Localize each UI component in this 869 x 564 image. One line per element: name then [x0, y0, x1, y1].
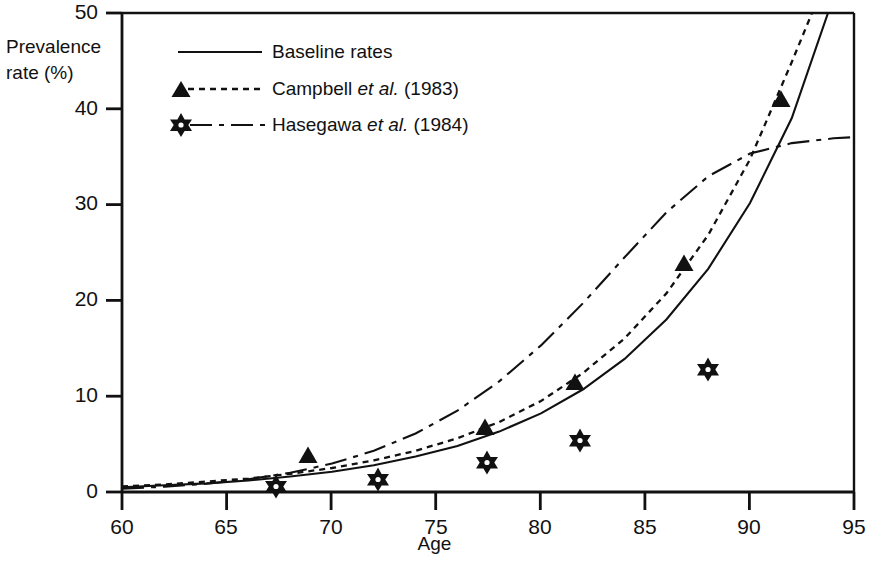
- y-tick-label-50: 50: [42, 0, 98, 24]
- x-tick-label-70: 70: [301, 515, 361, 539]
- y-axis-title-line2: rate (%): [6, 60, 101, 86]
- legend-label-hasegawa-prefix: Hasegawa: [272, 114, 367, 135]
- legend-label-hasegawa-italic: et al.: [367, 114, 408, 135]
- axis-frame: [122, 13, 854, 492]
- series-line-campbell: [122, 13, 812, 486]
- x-tick-label-90: 90: [719, 515, 779, 539]
- data-point-triangle: [772, 91, 791, 108]
- series-line-baseline: [122, 13, 828, 487]
- x-tick-label-80: 80: [510, 515, 570, 539]
- y-tick-label-0: 0: [42, 479, 98, 503]
- data-point-triangle: [299, 447, 318, 464]
- legend-label-baseline: Baseline rates: [272, 41, 392, 63]
- x-tick-label-75: 75: [406, 515, 466, 539]
- legend-label-campbell: Campbell et al. (1983): [272, 78, 459, 100]
- legend-label-campbell-suffix: (1983): [399, 78, 459, 99]
- y-tick-label-10: 10: [42, 383, 98, 407]
- x-tick-label-60: 60: [92, 515, 152, 539]
- data-point-star: [569, 429, 591, 453]
- legend-marker-star: [170, 113, 192, 137]
- y-axis-ticks: [106, 13, 122, 492]
- data-point-triangle: [476, 419, 495, 436]
- x-tick-label-85: 85: [615, 515, 675, 539]
- data-point-star: [367, 468, 389, 492]
- x-tick-label-95: 95: [824, 515, 869, 539]
- y-tick-label-30: 30: [42, 191, 98, 215]
- data-point-star: [697, 358, 719, 382]
- legend-label-hasegawa-suffix: (1984): [408, 114, 468, 135]
- prevalence-rate-chart: Prevalence rate (%) Age 0 10 20 30 40 50…: [0, 0, 869, 564]
- legend-swatches: [170, 52, 265, 137]
- legend-label-campbell-prefix: Campbell: [272, 78, 358, 99]
- legend-marker-triangle: [172, 81, 191, 97]
- x-axis-ticks: [122, 492, 854, 510]
- x-tick-label-65: 65: [196, 515, 256, 539]
- y-tick-label-40: 40: [42, 96, 98, 120]
- y-axis-title-line1: Prevalence: [6, 34, 101, 60]
- data-points-campbell: [299, 91, 791, 464]
- y-tick-label-20: 20: [42, 287, 98, 311]
- data-point-triangle: [675, 255, 694, 272]
- legend-label-campbell-italic: et al.: [358, 78, 399, 99]
- data-points-hasegawa: [265, 358, 719, 499]
- y-axis-title: Prevalence rate (%): [6, 34, 101, 86]
- data-point-star: [476, 451, 498, 475]
- legend-label-hasegawa: Hasegawa et al. (1984): [272, 114, 468, 136]
